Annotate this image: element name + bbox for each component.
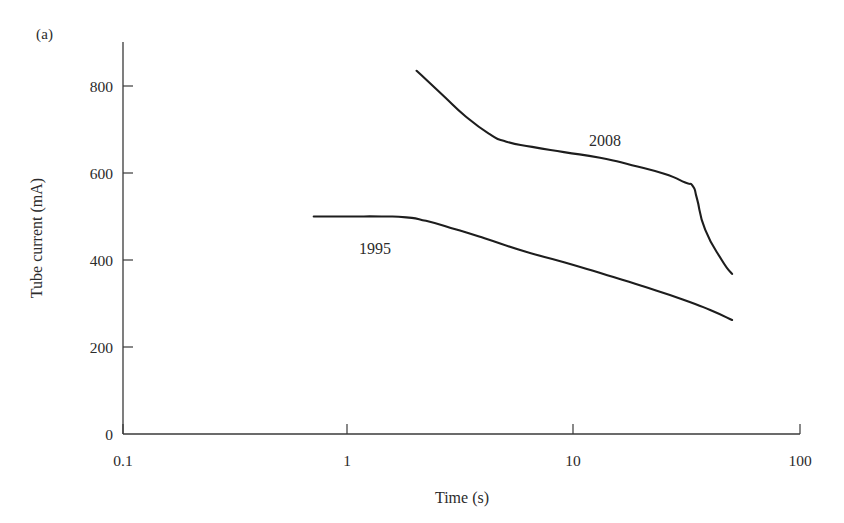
y-tick-label-600: 600 [90, 165, 114, 182]
y-axis-ticks [123, 86, 133, 347]
x-tick-label-1: 1 [343, 452, 351, 469]
y-tick-label-200: 200 [90, 339, 114, 356]
figure-container: (a) 800 600 400 200 0 0.1 1 10 100 [0, 0, 844, 523]
series-line-2008 [417, 71, 732, 274]
chart-plot: 800 600 400 200 0 0.1 1 10 100 Time (s) … [0, 0, 844, 523]
series-line-1995 [314, 216, 732, 320]
y-tick-label-800: 800 [90, 78, 114, 95]
series-label-2008: 2008 [589, 132, 621, 149]
series-label-1995: 1995 [359, 240, 391, 257]
y-axis-title: Tube current (mA) [28, 178, 46, 298]
x-tick-label-100: 100 [788, 452, 812, 469]
x-tick-label-10: 10 [565, 452, 581, 469]
x-axis-ticks [123, 424, 800, 434]
x-tick-label-0.1: 0.1 [113, 452, 132, 469]
x-axis-title: Time (s) [435, 489, 489, 507]
y-tick-label-0: 0 [105, 426, 113, 443]
y-tick-label-400: 400 [90, 252, 114, 269]
